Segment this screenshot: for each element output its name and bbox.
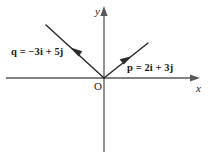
y-axis-arrowhead-icon — [100, 6, 107, 16]
x-axis-label: x — [196, 83, 201, 94]
y-axis-label: y — [95, 6, 100, 17]
x-axis-arrowhead-icon — [190, 74, 200, 81]
vector-q-arrowhead-icon — [71, 48, 83, 57]
vector-p-label: p = 2i + 3j — [127, 63, 173, 74]
origin-label: O — [94, 81, 102, 92]
vector-q-label: q = −3i + 5j — [11, 47, 63, 58]
vector-diagram-figure: y x O q = −3i + 5j p = 2i + 3j — [0, 0, 208, 160]
diagram-canvas — [0, 0, 208, 160]
